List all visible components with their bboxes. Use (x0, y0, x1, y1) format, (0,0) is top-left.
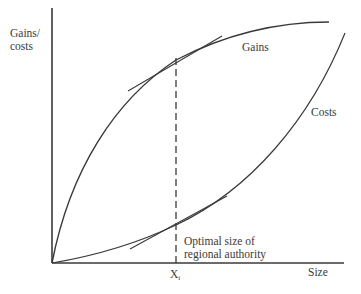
xi-subscript: i (178, 274, 180, 282)
costs-curve (52, 33, 345, 263)
gains-tangent-line (128, 36, 222, 91)
x-axis-label: Size (308, 266, 328, 279)
gains-costs-diagram (0, 0, 361, 294)
y-axis-label-line1: Gains/ (10, 27, 40, 40)
y-axis-label-line2: costs (10, 40, 40, 53)
annotation-line2: regional authority (184, 248, 266, 261)
optimal-size-annotation: Optimal size of regional authority (184, 235, 266, 261)
gains-curve-label: Gains (242, 41, 269, 54)
optimal-x-tick-label: Xi (170, 268, 180, 285)
costs-curve-label: Costs (311, 106, 337, 119)
y-axis-label: Gains/ costs (10, 27, 40, 53)
gains-curve (52, 22, 329, 263)
annotation-line1: Optimal size of (184, 235, 266, 248)
